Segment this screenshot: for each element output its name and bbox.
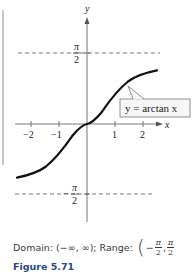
range-neg-sign: −: [146, 242, 154, 253]
range-lower-fraction: π 2: [155, 238, 162, 257]
svg-text:2: 2: [72, 195, 77, 206]
x-tick-2: 2: [140, 129, 145, 140]
x-tick-neg2: −2: [23, 129, 34, 140]
domain-label: Domain:: [13, 242, 53, 253]
y-tick-pi-over-2: π 2: [73, 41, 81, 65]
range-upper-fraction: π 2: [167, 238, 174, 257]
x-tick-1: 1: [112, 129, 117, 140]
callout-label: y = arctan x: [125, 102, 178, 114]
svg-text:−: −: [63, 188, 69, 199]
x-tick-neg1: −1: [51, 129, 62, 140]
x-axis-arrow-icon: [156, 122, 163, 127]
function-callout: y = arctan x: [120, 86, 190, 117]
range-open-paren: (: [137, 237, 145, 257]
svg-text:2: 2: [74, 54, 79, 65]
svg-text:π: π: [72, 182, 78, 193]
domain-value: (−∞, ∞);: [56, 242, 96, 253]
y-axis-arrow-icon: [85, 17, 90, 24]
y-tick-neg-pi-over-2: − π 2: [63, 182, 79, 206]
domain-range-caption: Domain: (−∞, ∞); Range: ( − π 2 , π 2: [13, 237, 175, 257]
range-separator: ,: [163, 242, 166, 253]
svg-text:π: π: [74, 41, 80, 52]
y-axis-label: y: [84, 3, 90, 14]
x-axis-label: x: [164, 119, 170, 130]
range-label: Range:: [100, 242, 133, 253]
arctan-graph: x y −2 −1 1 2 π 2 − π 2 y = arctan x: [0, 0, 195, 230]
figure-label: Figure 5.71: [13, 261, 74, 272]
